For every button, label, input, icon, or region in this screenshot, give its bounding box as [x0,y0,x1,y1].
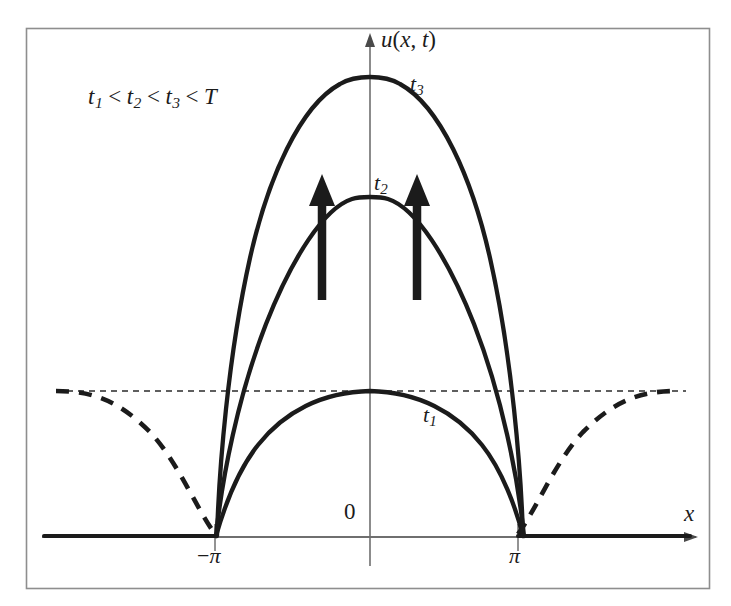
curve-label-t2: t2 [374,172,388,197]
inequality-term-3: t3 [165,84,180,109]
inequality-term-1: t1 [88,84,103,109]
inequality-operator-3: < [186,84,199,109]
origin-label: 0 [344,500,356,523]
inequality-term-2: t2 [127,84,142,109]
y-axis-label: u(x, t) [381,28,436,51]
curve-label-t3: t3 [410,73,424,98]
inequality-annotation: t1<t2<t3<T [88,85,217,111]
figure-container: t1<t2<t3<T u(x, t) x t3 t2 t1 0 −π π [0,0,731,606]
minus-sign: − [197,543,209,568]
inequality-term-4: T [204,84,217,109]
y-axis-label-x: x [400,27,410,52]
x-tick-label-pi: π [509,545,520,567]
pi-symbol: π [209,543,220,568]
x-tick-label-minus-pi: −π [197,545,220,567]
y-axis-label-comma: , [410,27,422,52]
figure-frame [27,29,710,589]
inequality-operator-1: < [108,84,121,109]
y-axis-label-close-paren: ) [428,27,436,52]
inequality-operator-2: < [147,84,160,109]
y-axis-label-u: u [381,27,393,52]
x-axis-label: x [684,502,694,525]
curve-label-t1: t1 [423,404,437,429]
